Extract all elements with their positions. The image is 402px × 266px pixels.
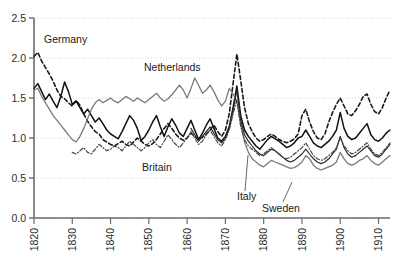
x-tick-label: 1900 [334, 228, 346, 252]
series-label-netherlands: Netherlands [144, 61, 201, 73]
x-tick-label: 1850 [142, 228, 154, 252]
series-label-britain: Britain [142, 161, 172, 173]
y-tick-label: 2.5 [11, 12, 26, 24]
y-tick-label: 0.0 [11, 212, 26, 224]
x-tick-label: 1820 [28, 228, 40, 252]
x-tick-label: 1870 [219, 228, 231, 252]
y-tick-label: 2.0 [11, 52, 26, 64]
x-tick-label: 1830 [66, 228, 78, 252]
series-label-italy: Italy [237, 190, 257, 202]
x-tick-label: 1880 [257, 228, 269, 252]
chart-container: 0.00.51.01.52.02.5 182018301840185018601… [0, 0, 402, 266]
series-label-sweden: Sweden [262, 202, 300, 214]
line-chart: 0.00.51.01.52.02.5 182018301840185018601… [0, 0, 402, 266]
series-label-germany: Germany [44, 33, 88, 45]
x-tick-label: 1860 [181, 228, 193, 252]
y-tick-label: 1.0 [11, 132, 26, 144]
x-tick-label: 1840 [104, 228, 116, 252]
x-tick-label: 1910 [372, 228, 384, 252]
y-tick-label: 1.5 [11, 92, 26, 104]
y-tick-label: 0.5 [11, 172, 26, 184]
x-tick-label: 1890 [296, 228, 308, 252]
